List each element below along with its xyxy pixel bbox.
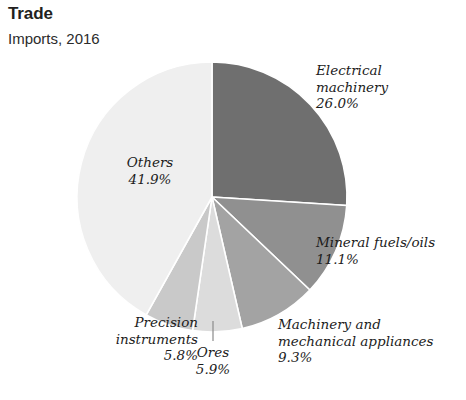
slice-label-mineral-fuels: Mineral fuels/oils 11.1% (316, 234, 466, 267)
pie-slice-group (77, 62, 347, 332)
slice-label-precision-instruments: Precision instruments 5.8% (62, 314, 198, 364)
slice-label-others: Others 41.9% (95, 154, 205, 187)
slice-label-electrical-machinery: Electrical machinery 26.0% (316, 62, 461, 112)
pie-chart: Electrical machinery 26.0% Mineral fuels… (0, 0, 466, 400)
slice-label-machinery-and-mechanical-appliances: Machinery and mechanical appliances 9.3% (278, 316, 466, 366)
